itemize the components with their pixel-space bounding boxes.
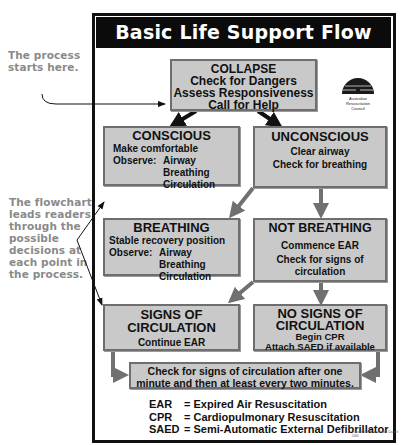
node-line: Attach SAED if available (255, 342, 385, 352)
arrow-notbreathing-signs (234, 282, 253, 298)
node-recheck-circulation: Check for signs of circulation after one… (129, 362, 361, 389)
node-heading: CONSCIOUS (105, 129, 238, 143)
node-line: Clear airway (255, 146, 385, 158)
legend-row: EAR = Expired Air Resuscitation (149, 398, 388, 411)
arrow-nosigns-recheck (368, 351, 378, 375)
annotation-pointer-start (42, 94, 165, 104)
arrow-unconscious-breathing (234, 188, 253, 212)
node-heading: CIRCULATION (105, 321, 238, 334)
node-line: circulation (255, 266, 385, 278)
observe-list: Observe: Airway Breathing Circulation (105, 247, 238, 283)
arrow-signs-recheck (113, 351, 121, 375)
node-line: Continue EAR (105, 337, 238, 349)
node-not-breathing: NOT BREATHING Commence EAR Check for sig… (253, 218, 387, 282)
node-unconscious: UNCONSCIOUS Clear airway Check for breat… (253, 126, 387, 188)
observe-item: Airway (163, 155, 215, 167)
legend-abbr: SAED (149, 423, 184, 436)
observe-item: Breathing (159, 259, 211, 271)
node-breathing: BREATHING Stable recovery position Obser… (103, 218, 240, 276)
node-conscious: CONSCIOUS Make comfortable Observe: Airw… (103, 126, 240, 186)
observe-item: Breathing (163, 167, 215, 179)
node-action: Make comfortable (105, 143, 238, 155)
arrow-collapse-conscious (176, 111, 196, 123)
observe-label: Observe: (109, 247, 159, 283)
legend-abbr: EAR (149, 398, 184, 411)
node-no-signs-of-circulation: NO SIGNS OF CIRCULATION Begin CPR Attach… (253, 304, 387, 351)
node-line: Check for signs of circulation after one (131, 365, 359, 377)
node-line: Call for Help (172, 99, 315, 111)
observe-item: Circulation (163, 179, 215, 191)
observe-item: Circulation (159, 271, 211, 283)
legend-abbr: CPR (149, 411, 184, 424)
annotation-pointer-to-conscious (77, 202, 104, 240)
legend-meaning: = Expired Air Resuscitation (184, 398, 327, 411)
node-collapse: COLLAPSE Check for Dangers Assess Respon… (170, 59, 317, 111)
node-signs-of-circulation: SIGNS OF CIRCULATION Continue EAR (103, 304, 240, 351)
node-line: Commence EAR (255, 240, 385, 252)
node-line: Check for breathing (255, 159, 385, 171)
annotation-pointer-to-signs (77, 240, 102, 305)
legend-meaning: = Cardiopulmonary Resuscitation (184, 411, 360, 424)
node-action: Stable recovery position (105, 235, 238, 247)
observe-list: Observe: Airway Breathing Circulation (105, 155, 238, 191)
copyright-notice: © Australian Resuscitation Council 2000 (352, 430, 402, 438)
node-heading: NOT BREATHING (255, 221, 385, 236)
node-heading: UNCONSCIOUS (255, 129, 385, 144)
arrow-collapse-unconscious (258, 111, 276, 123)
legend-row: CPR = Cardiopulmonary Resuscitation (149, 411, 388, 424)
observe-item: Airway (159, 247, 211, 259)
node-heading: BREATHING (105, 221, 238, 235)
observe-label: Observe: (113, 155, 163, 191)
node-line: minute and then at least every two minut… (131, 377, 359, 389)
node-line: Check for signs of (255, 254, 385, 266)
